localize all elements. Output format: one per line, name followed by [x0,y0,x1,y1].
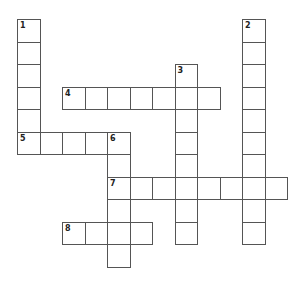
crossword-cell[interactable] [85,87,109,111]
crossword-cell[interactable] [242,222,266,246]
crossword-cell[interactable] [197,177,221,201]
crossword-cell[interactable] [242,87,266,111]
crossword-cell[interactable]: 1 [17,19,41,43]
crossword-cell[interactable] [130,177,154,201]
crossword-cell[interactable] [242,132,266,156]
crossword-cell[interactable] [175,222,199,246]
clue-number: 4 [65,89,71,98]
crossword-cell[interactable] [152,177,176,201]
crossword-cell[interactable] [152,87,176,111]
crossword-cell[interactable] [40,132,64,156]
crossword-cell[interactable] [242,199,266,223]
crossword-cell[interactable] [85,222,109,246]
crossword-cell[interactable] [130,87,154,111]
crossword-cell[interactable]: 8 [62,222,86,246]
crossword-cell[interactable]: 2 [242,19,266,43]
crossword-cell[interactable] [175,132,199,156]
crossword-cell[interactable] [107,154,131,178]
crossword-cell[interactable] [265,177,289,201]
crossword-cell[interactable] [107,87,131,111]
crossword-cell[interactable] [242,154,266,178]
crossword-cell[interactable] [175,87,199,111]
crossword-cell[interactable] [130,222,154,246]
crossword-cell[interactable] [62,132,86,156]
crossword-cell[interactable] [242,177,266,201]
crossword-cell[interactable] [17,42,41,66]
crossword-cell[interactable] [197,87,221,111]
crossword-cell[interactable] [220,177,244,201]
crossword-cell[interactable]: 6 [107,132,131,156]
crossword-cell[interactable] [242,42,266,66]
clue-number: 6 [110,134,116,143]
clue-number: 5 [20,134,26,143]
crossword-cell[interactable]: 4 [62,87,86,111]
crossword-cell[interactable] [107,199,131,223]
crossword-cell[interactable]: 3 [175,64,199,88]
crossword-cell[interactable] [17,64,41,88]
crossword-cell[interactable] [242,64,266,88]
clue-number: 7 [110,179,116,188]
crossword-cell[interactable] [107,244,131,268]
crossword-cell[interactable] [242,109,266,133]
crossword-cell[interactable] [175,199,199,223]
crossword-cell[interactable]: 7 [107,177,131,201]
crossword-cell[interactable]: 5 [17,132,41,156]
crossword-cell[interactable] [175,154,199,178]
crossword-cell[interactable] [85,132,109,156]
clue-number: 1 [20,21,26,30]
clue-number: 3 [178,66,184,75]
crossword-cell[interactable] [175,177,199,201]
crossword-cell[interactable] [107,222,131,246]
clue-number: 8 [65,224,71,233]
crossword-cell[interactable] [175,109,199,133]
crossword-grid: 15234678 [0,0,302,288]
crossword-cell[interactable] [17,109,41,133]
clue-number: 2 [245,21,251,30]
crossword-cell[interactable] [17,87,41,111]
